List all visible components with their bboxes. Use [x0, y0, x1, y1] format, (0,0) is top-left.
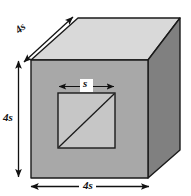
cube-diagram-svg — [0, 0, 191, 196]
geometry-figure: 4s 4s 4s s — [0, 0, 191, 196]
hole-side-dimension-label: s — [83, 78, 87, 89]
width-dimension-label: 4s — [83, 180, 93, 191]
height-dimension-label: 4s — [3, 112, 13, 123]
